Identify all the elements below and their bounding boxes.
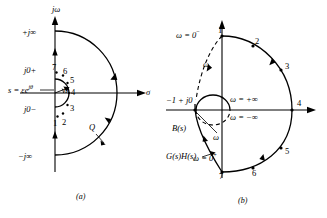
omega-plus-infinity-label: ω = +∞ (230, 95, 258, 104)
contour-point-3 (66, 104, 68, 106)
point-label-b-1: 1 (218, 26, 222, 35)
axis-direction-arrow-lower (52, 131, 57, 139)
axis-mark-minus-j-infinity: −j∞ (18, 152, 32, 161)
axis-direction-arrow-upper (52, 48, 57, 56)
omega-direction-arrow-lower (203, 136, 208, 142)
real-axis-arrowhead (137, 90, 146, 96)
contour-point-2 (62, 112, 64, 114)
imaginary-axis-arrowhead (52, 16, 58, 25)
axis-mark-plus-j-infinity: +j∞ (22, 28, 36, 37)
point-label-b-5: 5 (285, 147, 289, 156)
locus-direction-arrow-upper (269, 58, 275, 65)
axis-mark-j0-plus: j0+ (24, 66, 36, 75)
point-label-a-5: 5 (70, 76, 74, 85)
indentation-equation-label: s = εejθ (8, 86, 33, 95)
omega-label-lower: ω (213, 133, 219, 142)
locus-point-4 (290, 108, 293, 111)
small-loop-upper-solid (196, 95, 230, 110)
theta-label: θ (64, 86, 68, 95)
locus-direction-arrow-lower (259, 154, 265, 161)
point-label-a-7: 7 (52, 63, 56, 72)
point-label-a-4: 4 (71, 88, 75, 97)
point-label-a-3: 3 (70, 104, 74, 113)
g-h-of-s-label: G(s)H(s) (166, 152, 196, 161)
omega-zero-plus-label: ω = 0+ (193, 154, 217, 163)
b-of-s-label: B(s) (172, 124, 186, 133)
q-leader-arrowhead (101, 141, 106, 146)
panel-caption-a: (a) (76, 192, 85, 201)
omega-label-upper: ω (203, 60, 209, 69)
omega-minus-infinity-label: ω = −∞ (230, 113, 258, 122)
axis-label-sigma: σ (146, 88, 150, 97)
large-arc-label-q: Q (89, 123, 95, 132)
axis-label-jomega: jω (52, 5, 60, 14)
point-label-b-4: 4 (297, 99, 301, 108)
point-label-b-3: 3 (285, 62, 289, 71)
gh-locus-main-arc (222, 36, 292, 172)
b-of-s-leader (195, 111, 217, 133)
locus-point-5 (279, 146, 282, 149)
figure-root: jω σ +j∞ j0+ j0− −j∞ s = εejθ θ Q 1 2 3 … (0, 0, 327, 218)
axis-mark-j0-minus: j0− (24, 105, 36, 114)
critical-point-label: −1 + j0 (166, 96, 193, 105)
b-horizontal-axis-arrowhead (307, 107, 316, 113)
contour-point-5 (66, 82, 68, 84)
point-label-b-2: 2 (255, 37, 259, 46)
locus-point-3 (279, 68, 282, 71)
point-label-a-1: 1 (53, 119, 57, 128)
panel-caption-b: (b) (238, 196, 247, 205)
point-label-b-6: 6 (252, 169, 256, 178)
point-label-a-6: 6 (63, 67, 67, 76)
point-label-a-2: 2 (62, 118, 66, 127)
omega-zero-minus-label: ω = 0− (176, 31, 200, 40)
point-label-b-7: 7 (219, 172, 223, 181)
